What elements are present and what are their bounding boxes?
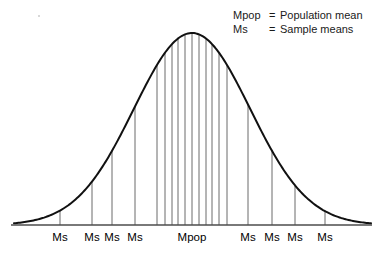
legend-item-mpop: Mpop = Population mean xyxy=(233,9,363,23)
bell-curve xyxy=(14,33,371,223)
legend-desc-ms: Sample means xyxy=(280,23,353,37)
legend: Mpop = Population mean Ms = Sample means xyxy=(233,9,363,36)
legend-equals-mpop: = xyxy=(269,9,280,23)
legend-equals-ms: = xyxy=(269,23,280,37)
x-tick-label-ms: Ms xyxy=(264,231,279,244)
legend-item-ms: Ms = Sample means xyxy=(233,23,363,37)
ordinate-lines xyxy=(60,33,325,225)
x-tick-label-ms: Ms xyxy=(240,231,255,244)
scan-artifact xyxy=(38,15,40,17)
x-tick-label-ms: Ms xyxy=(104,231,119,244)
x-tick-label-ms: Ms xyxy=(127,231,142,244)
normal-distribution-figure xyxy=(0,0,383,254)
x-tick-label-ms: Ms xyxy=(287,231,302,244)
legend-key-ms: Ms xyxy=(233,23,269,37)
x-tick-label-ms: Ms xyxy=(52,231,67,244)
legend-key-mpop: Mpop xyxy=(233,9,269,23)
x-tick-label-ms: Ms xyxy=(317,231,332,244)
legend-desc-mpop: Population mean xyxy=(280,9,363,23)
x-tick-label-ms: Ms xyxy=(84,231,99,244)
x-tick-label-mpop: Mpop xyxy=(178,231,207,244)
